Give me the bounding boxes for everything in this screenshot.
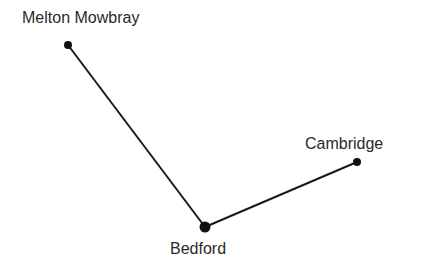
edge-melton-bedford bbox=[68, 45, 205, 227]
node-cambridge-dot bbox=[353, 158, 361, 166]
edge-bedford-cambridge bbox=[205, 162, 357, 227]
node-melton-mowbray-dot bbox=[64, 41, 72, 49]
label-cambridge: Cambridge bbox=[305, 136, 383, 152]
node-bedford-dot bbox=[200, 222, 211, 233]
label-bedford: Bedford bbox=[170, 241, 226, 257]
label-melton-mowbray: Melton Mowbray bbox=[22, 10, 139, 26]
